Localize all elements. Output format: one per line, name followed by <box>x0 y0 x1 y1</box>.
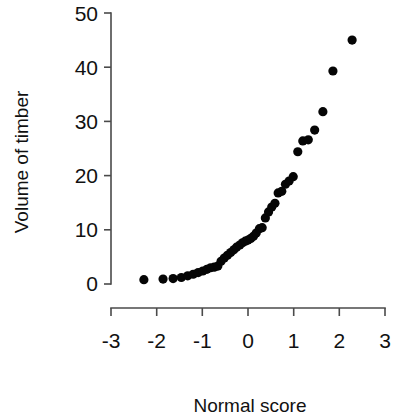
y-tick-label-30: 30 <box>75 110 98 133</box>
y-tick-label-20: 20 <box>75 164 98 187</box>
data-point <box>169 274 178 283</box>
data-point <box>270 199 279 208</box>
x-tick-label-3: 3 <box>379 329 391 352</box>
x-tick-label-neg1: -1 <box>193 329 212 352</box>
data-point <box>304 135 313 144</box>
data-point <box>328 66 337 75</box>
data-point <box>258 223 267 232</box>
x-tick-label-0: 0 <box>242 329 254 352</box>
y-tick-label-40: 40 <box>75 56 98 79</box>
y-tick-label-10: 10 <box>75 218 98 241</box>
x-tick-label-2: 2 <box>333 329 345 352</box>
data-point <box>310 125 319 134</box>
y-axis: 50 40 30 20 10 0 <box>75 2 111 295</box>
x-tick-label-1: 1 <box>288 329 300 352</box>
data-point <box>158 275 167 284</box>
qq-plot-figure: 50 40 30 20 10 0 -3 -2 -1 0 1 2 3 <box>0 0 399 420</box>
x-tick-label-neg2: -2 <box>147 329 166 352</box>
data-points-layer <box>139 36 356 285</box>
data-point <box>293 147 302 156</box>
x-tick-label-neg3: -3 <box>102 329 121 352</box>
x-axis: -3 -2 -1 0 1 2 3 <box>102 308 391 352</box>
y-axis-title: Volume of timber <box>11 90 32 233</box>
data-point <box>289 172 298 181</box>
y-tick-label-50: 50 <box>75 2 98 25</box>
y-tick-label-0: 0 <box>86 272 98 295</box>
data-point <box>318 107 327 116</box>
plot-canvas: 50 40 30 20 10 0 -3 -2 -1 0 1 2 3 <box>0 0 399 420</box>
x-axis-title: Normal score <box>194 395 307 416</box>
data-point <box>348 36 357 45</box>
data-point <box>139 275 148 284</box>
